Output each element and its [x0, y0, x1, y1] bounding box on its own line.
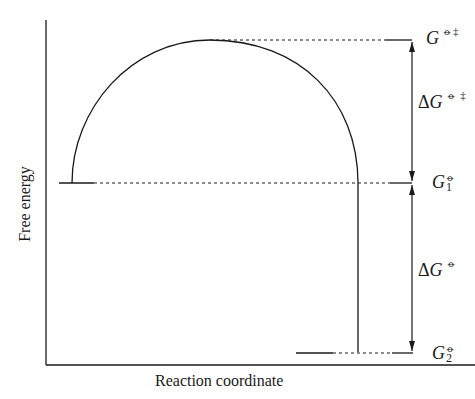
- activation-energy-label: ΔG⦵ ‡: [418, 92, 467, 113]
- symbol: G: [432, 172, 445, 192]
- arrow-down-icon: [409, 341, 415, 351]
- x-axis-label: Reaction coordinate: [155, 372, 283, 390]
- initial-state-label: G⦵1: [432, 172, 455, 193]
- symbol: G: [426, 28, 439, 48]
- reaction-curve: [72, 40, 358, 352]
- subscript: 1: [446, 182, 455, 192]
- arrow-up-icon: [409, 42, 415, 52]
- y-axis-label: Free energy: [16, 159, 34, 249]
- reaction-energy-label: ΔG⦵: [418, 260, 457, 281]
- symbol: G: [432, 343, 445, 363]
- energy-diagram: [0, 0, 475, 399]
- arrow-up-icon: [409, 185, 415, 195]
- final-state-label: G⦵2: [432, 343, 455, 364]
- superscript: ⦵‡: [443, 25, 460, 37]
- superscript: ⦵: [447, 257, 457, 269]
- arrow-down-icon: [409, 171, 415, 181]
- subscript: 2: [446, 353, 455, 363]
- superscript: ⦵ ‡: [447, 89, 467, 101]
- transition-state-label: G⦵‡: [426, 28, 460, 49]
